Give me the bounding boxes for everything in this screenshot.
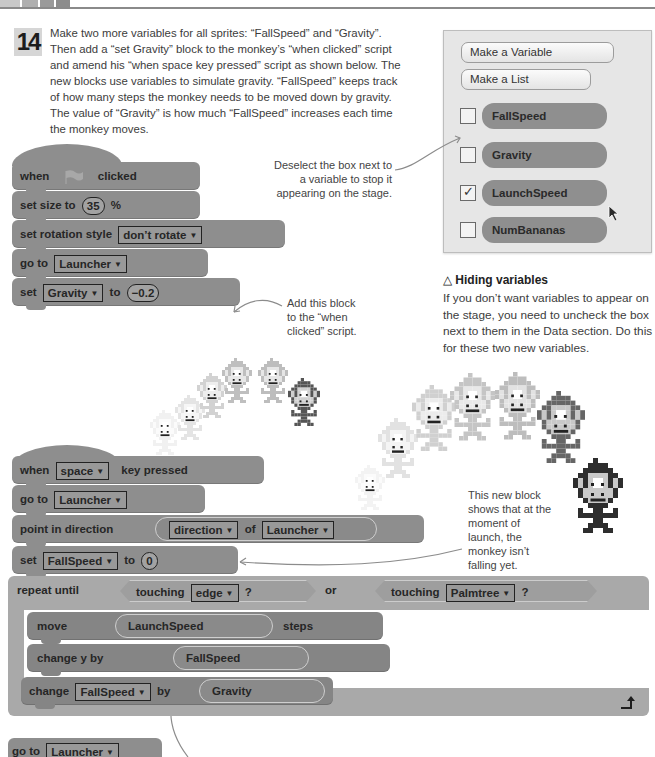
green-flag-icon — [63, 169, 85, 185]
set-rotation-style-block[interactable]: set rotation style don’t rotate▼ — [12, 220, 285, 248]
repeat-until-label: repeat until — [17, 584, 79, 596]
go-to-launcher-block[interactable]: go to Launcher▼ — [12, 249, 208, 277]
when-flag-clicked-block[interactable]: when clicked — [12, 162, 200, 190]
change-fallspeed-block[interactable]: change FallSpeed▼ by Gravity — [21, 677, 333, 705]
dropdown-arrow-icon: ▼ — [226, 526, 234, 535]
move-steps-block[interactable]: move LaunchSpeed steps — [27, 612, 383, 640]
gravity-value-input[interactable]: −0.2 — [127, 284, 160, 302]
goto-target-dropdown[interactable]: Launcher▼ — [54, 491, 127, 509]
loop-arrow-icon — [620, 696, 636, 710]
set-size-block[interactable]: set size to 35 % — [12, 191, 200, 219]
dropdown-arrow-icon: ▼ — [114, 260, 122, 269]
monkey-sprite-icon — [495, 372, 540, 440]
goto-target-dropdown[interactable]: Launcher▼ — [46, 743, 119, 757]
dropdown-arrow-icon: ▼ — [322, 526, 330, 535]
dropdown-arrow-icon: ▼ — [96, 467, 104, 476]
dropdown-arrow-icon: ▼ — [226, 589, 234, 598]
launchspeed-reporter[interactable]: LaunchSpeed — [115, 614, 273, 638]
dropdown-arrow-icon: ▼ — [106, 748, 114, 757]
or-operator-label: or — [325, 584, 337, 596]
fallspeed-reporter[interactable]: FallSpeed — [173, 646, 309, 670]
go-to-launcher-block[interactable]: go to Launcher▼ — [8, 738, 162, 757]
size-input[interactable]: 35 — [82, 197, 105, 215]
touching-edge-condition[interactable]: touching edge▼ ? — [120, 580, 316, 602]
monkey-sprite-icon — [573, 458, 623, 533]
dropdown-arrow-icon: ▼ — [114, 496, 122, 505]
fallspeed-value-input[interactable]: 0 — [141, 552, 157, 570]
monkey-sprite-icon — [258, 358, 288, 403]
dropdown-arrow-icon: ▼ — [189, 231, 197, 240]
sprite-dropdown[interactable]: Launcher▼ — [262, 521, 335, 539]
touching-target-dropdown[interactable]: edge▼ — [191, 584, 239, 602]
dropdown-arrow-icon: ▼ — [105, 557, 113, 566]
when-key-pressed-block[interactable]: when space▼ key pressed — [12, 456, 264, 484]
goto-target-dropdown[interactable]: Launcher▼ — [54, 255, 127, 273]
monkey-sprite-icon — [288, 378, 320, 426]
go-to-launcher-block[interactable]: go to Launcher▼ — [12, 485, 205, 513]
monkey-sprite-icon — [537, 391, 585, 463]
set-gravity-block[interactable]: set Gravity▼ to −0.2 — [12, 278, 240, 306]
set-fallspeed-block[interactable]: set FallSpeed▼ to 0 — [12, 546, 238, 574]
touching-palmtree-condition[interactable]: touching Palmtree▼ ? — [375, 580, 597, 602]
dropdown-arrow-icon: ▼ — [138, 688, 146, 697]
dropdown-arrow-icon: ▼ — [502, 589, 510, 598]
change-variable-dropdown[interactable]: FallSpeed▼ — [75, 683, 150, 701]
touching-target-dropdown[interactable]: Palmtree▼ — [446, 584, 516, 602]
gravity-variable-dropdown[interactable]: Gravity▼ — [43, 284, 104, 302]
rotation-style-dropdown[interactable]: don’t rotate▼ — [118, 226, 202, 244]
fallspeed-variable-dropdown[interactable]: FallSpeed▼ — [43, 552, 118, 570]
point-in-direction-block[interactable]: point in direction direction▼ of Launche… — [12, 515, 424, 543]
gravity-reporter[interactable]: Gravity — [199, 679, 325, 703]
dropdown-arrow-icon: ▼ — [90, 289, 98, 298]
key-dropdown[interactable]: space▼ — [56, 462, 110, 480]
attribute-dropdown[interactable]: direction▼ — [169, 521, 238, 539]
change-y-by-block[interactable]: change y by FallSpeed — [27, 644, 390, 672]
monkey-sprite-icon — [222, 358, 252, 403]
monkey-sprite-icon — [450, 373, 495, 441]
direction-of-reporter[interactable]: direction▼ of Launcher▼ — [155, 517, 377, 541]
